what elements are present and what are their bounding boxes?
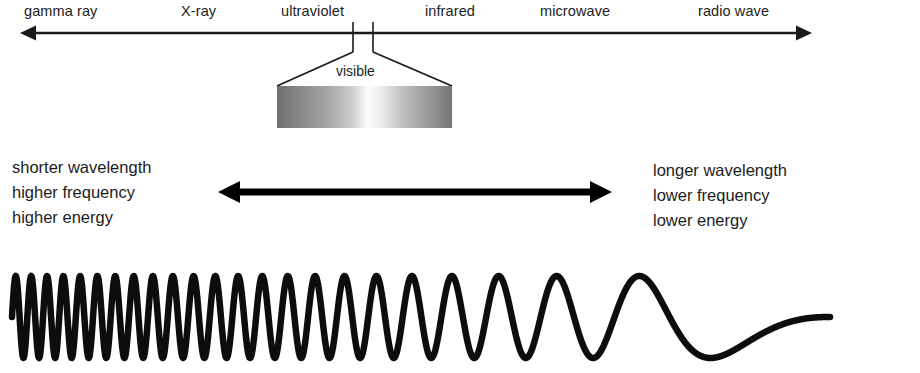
long-line-2: lower frequency [653,183,787,208]
electromagnetic-spectrum-diagram: gamma rayX-rayultravioletinfraredmicrowa… [0,0,920,373]
short-line-2: higher frequency [12,180,151,205]
long-line-1: longer wavelength [653,158,787,183]
longer-wavelength-block: longer wavelength lower frequency lower … [653,158,787,233]
spectrum-band-label: radio wave [698,3,769,19]
spectrum-band-label: ultraviolet [281,3,344,19]
spectrum-band-label: microwave [540,3,610,19]
wavelength-direction-arrow [218,181,612,203]
short-line-1: shorter wavelength [12,155,151,180]
visible-band-label: visible [336,63,375,79]
spectrum-axis-arrow [20,26,812,41]
spectrum-band-label: X-ray [181,3,216,19]
chirped-sine-wave [12,276,830,358]
spectrum-band-label: infrared [425,3,475,19]
visible-spectrum-bar [277,86,452,128]
shorter-wavelength-block: shorter wavelength higher frequency high… [12,155,151,230]
short-line-3: higher energy [12,205,151,230]
spectrum-band-label: gamma ray [24,3,97,19]
long-line-3: lower energy [653,208,787,233]
